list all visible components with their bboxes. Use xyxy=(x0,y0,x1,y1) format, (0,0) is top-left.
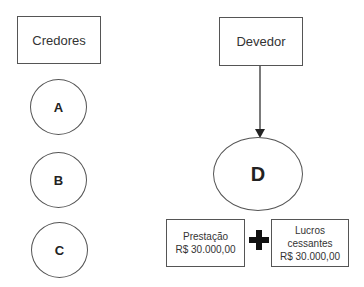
node-d: D xyxy=(213,137,303,211)
node-d-label: D xyxy=(251,163,265,186)
lost-profits-label-1: Lucros xyxy=(295,224,325,237)
installment-box: Prestação R$ 30.000,00 xyxy=(166,219,245,267)
installment-value: R$ 30.000,00 xyxy=(175,243,235,256)
lost-profits-box: Lucros cessantes R$ 30.000,00 xyxy=(271,219,349,267)
lost-profits-label-2: cessantes xyxy=(287,237,332,250)
lost-profits-value: R$ 30.000,00 xyxy=(280,250,340,263)
installment-label: Prestação xyxy=(183,230,228,243)
plus-icon xyxy=(248,228,270,252)
